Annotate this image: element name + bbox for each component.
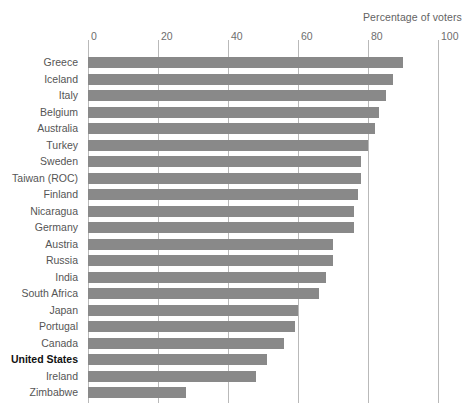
bar-row: Taiwan (ROC) (0, 173, 474, 184)
bar-greece (88, 57, 403, 68)
bar-chart: Percentage of voters 020406080100 Greece… (0, 0, 474, 416)
category-label-iceland: Iceland (0, 72, 78, 86)
category-label-canada: Canada (0, 336, 78, 350)
bar-row: Nicaragua (0, 206, 474, 217)
bar-rows: GreeceIcelandItalyBelgiumAustraliaTurkey… (0, 0, 474, 416)
category-label-russia: Russia (0, 253, 78, 267)
category-label-finland: Finland (0, 187, 78, 201)
bar-iceland (88, 74, 393, 85)
bar-row: Sweden (0, 156, 474, 167)
bar-germany (88, 222, 354, 233)
bar-row: United States (0, 354, 474, 365)
bar-row: Russia (0, 255, 474, 266)
category-label-united-states: United States (0, 352, 78, 366)
category-label-australia: Australia (0, 121, 78, 135)
bar-row: Portugal (0, 321, 474, 332)
category-label-belgium: Belgium (0, 105, 78, 119)
bar-row: Germany (0, 222, 474, 233)
category-label-south-africa: South Africa (0, 286, 78, 300)
bar-finland (88, 189, 358, 200)
bar-row: Canada (0, 338, 474, 349)
bar-row: South Africa (0, 288, 474, 299)
category-label-turkey: Turkey (0, 138, 78, 152)
bar-row: Turkey (0, 140, 474, 151)
category-label-austria: Austria (0, 237, 78, 251)
bar-row: Greece (0, 57, 474, 68)
bar-italy (88, 90, 386, 101)
bar-row: Austria (0, 239, 474, 250)
bar-portugal (88, 321, 295, 332)
category-label-nicaragua: Nicaragua (0, 204, 78, 218)
bar-row: Belgium (0, 107, 474, 118)
bar-row: Iceland (0, 74, 474, 85)
bar-row: Australia (0, 123, 474, 134)
category-label-portugal: Portugal (0, 319, 78, 333)
category-label-italy: Italy (0, 88, 78, 102)
bar-nicaragua (88, 206, 354, 217)
bar-turkey (88, 140, 368, 151)
bar-row: India (0, 272, 474, 283)
category-label-ireland: Ireland (0, 369, 78, 383)
category-label-taiwan-roc: Taiwan (ROC) (0, 171, 78, 185)
bar-row: Italy (0, 90, 474, 101)
bar-australia (88, 123, 375, 134)
bar-row: Ireland (0, 371, 474, 382)
bar-ireland (88, 371, 256, 382)
bar-india (88, 272, 326, 283)
bar-canada (88, 338, 284, 349)
bar-united-states (88, 354, 267, 365)
category-label-japan: Japan (0, 303, 78, 317)
bar-row: Zimbabwe (0, 387, 474, 398)
bar-russia (88, 255, 333, 266)
bar-austria (88, 239, 333, 250)
bar-zimbabwe (88, 387, 186, 398)
category-label-india: India (0, 270, 78, 284)
category-label-zimbabwe: Zimbabwe (0, 385, 78, 399)
category-label-germany: Germany (0, 220, 78, 234)
category-label-sweden: Sweden (0, 154, 78, 168)
bar-taiwan-roc (88, 173, 361, 184)
bar-row: Finland (0, 189, 474, 200)
bar-row: Japan (0, 305, 474, 316)
bar-japan (88, 305, 298, 316)
category-label-greece: Greece (0, 55, 78, 69)
bar-belgium (88, 107, 379, 118)
bar-sweden (88, 156, 361, 167)
bar-south-africa (88, 288, 319, 299)
